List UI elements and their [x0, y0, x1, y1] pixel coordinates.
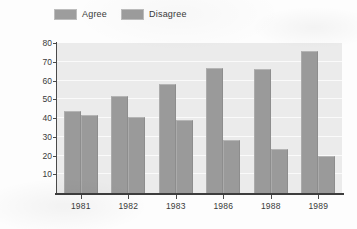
x-axis-line: [55, 193, 344, 195]
chart-legend: Agree Disagree: [54, 6, 187, 22]
x-tick-mark: [81, 195, 82, 199]
y-tick-label: 70: [43, 57, 52, 67]
gridline: [57, 136, 342, 137]
plot-area: [57, 43, 342, 193]
x-tick-label-1988: 1988: [261, 201, 281, 211]
y-tick-label: 10: [43, 169, 52, 179]
y-tick-label: 80: [43, 38, 52, 48]
bar-agree-1986: [206, 68, 223, 193]
y-tick-label: 20: [43, 151, 52, 161]
y-tick-mark: [53, 81, 57, 82]
legend-label-disagree: Disagree: [149, 9, 187, 19]
y-tick-label: 40: [43, 113, 52, 123]
bar-agree-1989: [301, 51, 318, 193]
gridline: [57, 61, 342, 62]
x-tick-label-1986: 1986: [213, 201, 233, 211]
y-tick-label: 50: [43, 94, 52, 104]
bar-disagree-1981: [81, 115, 98, 193]
legend-item-agree: Agree: [54, 9, 107, 20]
bar-agree-1981: [64, 111, 81, 193]
gridline: [57, 155, 342, 156]
bar-chart-figure: Agree Disagree Percentage 10203040506070…: [0, 0, 357, 229]
x-tick-mark: [223, 195, 224, 199]
gridline: [57, 80, 342, 81]
y-tick-mark: [53, 99, 57, 100]
legend-swatch-icon-disagree: [121, 9, 144, 20]
gridline: [57, 117, 342, 118]
x-tick-mark: [271, 195, 272, 199]
plot-frame: 1020304050607080 19811982198319861988198…: [57, 43, 342, 193]
x-tick-label-1989: 1989: [308, 201, 328, 211]
bar-disagree-1986: [223, 140, 240, 193]
bar-agree-1983: [159, 84, 176, 193]
bar-disagree-1982: [128, 117, 145, 193]
bar-disagree-1988: [271, 149, 288, 193]
y-tick-mark: [53, 156, 57, 157]
y-tick-mark: [53, 43, 57, 44]
y-tick-label: 30: [43, 132, 52, 142]
x-tick-label-1983: 1983: [166, 201, 186, 211]
x-tick-mark: [176, 195, 177, 199]
x-tick-mark: [318, 195, 319, 199]
y-tick-mark: [53, 174, 57, 175]
y-tick-mark: [53, 118, 57, 119]
x-tick-label-1981: 1981: [71, 201, 91, 211]
legend-item-disagree: Disagree: [121, 9, 187, 20]
y-tick-mark: [53, 62, 57, 63]
x-tick-mark: [128, 195, 129, 199]
legend-label-agree: Agree: [82, 9, 107, 19]
bar-disagree-1989: [318, 156, 335, 193]
y-tick-mark: [53, 137, 57, 138]
gridline: [57, 98, 342, 99]
y-tick-label: 60: [43, 76, 52, 86]
x-tick-label-1982: 1982: [118, 201, 138, 211]
bar-disagree-1983: [176, 120, 193, 193]
bar-agree-1982: [111, 96, 128, 194]
gridline: [57, 173, 342, 174]
legend-swatch-icon-agree: [54, 9, 77, 20]
bar-agree-1988: [254, 69, 271, 193]
